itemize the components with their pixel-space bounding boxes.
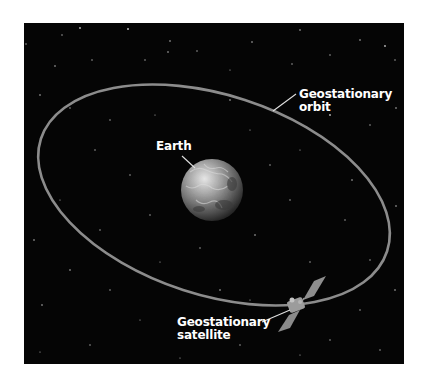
satellite-label: Geostationary satellite: [177, 316, 270, 342]
orbit-label-line2: orbit: [299, 101, 392, 114]
earth-leader-line: [182, 156, 195, 168]
satellite-icon: [278, 276, 326, 332]
earth-icon: [181, 159, 243, 221]
orbit-leader-line: [273, 94, 296, 111]
earth-label: Earth: [156, 140, 192, 153]
satellite-label-line2: satellite: [177, 329, 270, 342]
earth-label-text: Earth: [156, 140, 192, 153]
orbit-label: Geostationary orbit: [299, 88, 392, 114]
